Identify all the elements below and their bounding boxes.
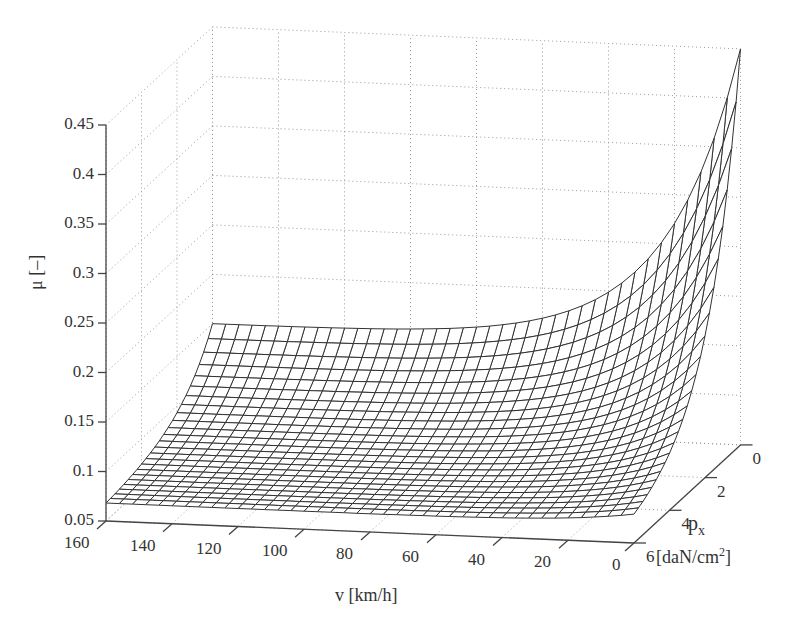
px-unit-close: ]	[725, 547, 731, 567]
z-tick-label: 0.25	[34, 312, 94, 332]
z-tick-label: 0.4	[34, 164, 94, 184]
px-tick-label: 2	[717, 482, 726, 502]
v-tick-label: 0	[612, 555, 621, 575]
z-tick-label: 0.35	[34, 213, 94, 233]
surface-mesh	[106, 49, 741, 518]
z-tick-label: 0.2	[34, 362, 94, 382]
z-tick-label: 0.1	[34, 461, 94, 481]
v-tick-label: 140	[130, 536, 156, 556]
v-tick-label: 20	[534, 552, 551, 572]
v-axis-title: v [km/h]	[335, 585, 398, 606]
v-tick-label: 120	[196, 539, 222, 559]
px-symbol: p	[688, 512, 698, 534]
v-tick-label: 100	[262, 541, 288, 561]
surface-plot	[0, 0, 790, 622]
v-tick-label: 40	[468, 550, 485, 570]
v-tick-label: 60	[402, 547, 419, 567]
mu-axis-title: μ [–]	[26, 255, 47, 290]
z-tick-label: 0.45	[34, 114, 94, 134]
z-tick-label: 0.15	[34, 411, 94, 431]
v-tick-label: 80	[336, 544, 353, 564]
px-axis-title: px	[688, 512, 705, 539]
px-tick-label: 0	[753, 449, 762, 469]
px-tick-label: 6	[646, 547, 655, 567]
px-subscript: x	[698, 523, 705, 538]
px-unit: [daN/cm2]	[656, 545, 731, 568]
px-unit-text: [daN/cm	[656, 547, 719, 567]
z-tick-label: 0.05	[34, 510, 94, 530]
v-tick-label: 160	[64, 533, 90, 553]
